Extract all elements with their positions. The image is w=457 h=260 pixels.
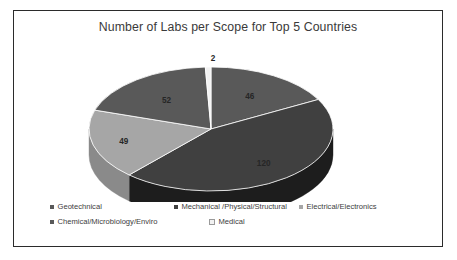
pie-slice-label: 2 (211, 54, 216, 63)
legend-item-label: Chemical/Microbiology/Enviro (58, 218, 158, 226)
legend-swatch-icon (174, 205, 178, 209)
legend-item-label: Mechanical /Physical/Structural (182, 203, 288, 211)
legend-swatch-icon (50, 220, 54, 224)
legend-swatch-icon (299, 205, 303, 209)
legend-item-label: Geotechnical (58, 203, 102, 211)
legend-item[interactable]: Electrical/Electronics (299, 203, 377, 211)
legend-item[interactable]: Geotechnical (50, 203, 102, 211)
pie-slices (89, 67, 333, 191)
legend-swatch-icon (50, 205, 54, 209)
chart-title: Number of Labs per Scope for Top 5 Count… (14, 20, 442, 34)
legend-swatch-icon (209, 219, 215, 225)
pie-slice-label: 49 (119, 137, 129, 146)
legend-item[interactable]: Mechanical /Physical/Structural (174, 203, 287, 211)
pie-slice-label: 120 (257, 159, 271, 168)
pie-slice-label: 46 (245, 92, 255, 101)
pie-slice-label: 52 (162, 96, 172, 105)
pie-chart-svg: 4612049522 (14, 37, 444, 202)
chart-frame: Number of Labs per Scope for Top 5 Count… (13, 10, 443, 247)
pie-chart: 4612049522 (14, 37, 444, 202)
legend-item[interactable]: Medical (209, 218, 245, 226)
chart-legend: GeotechnicalMechanical /Physical/Structu… (14, 203, 444, 247)
legend-item-label: Electrical/Electronics (307, 203, 377, 211)
legend-item[interactable]: Chemical/Microbiology/Enviro (50, 218, 158, 226)
legend-item-label: Medical (219, 218, 245, 226)
